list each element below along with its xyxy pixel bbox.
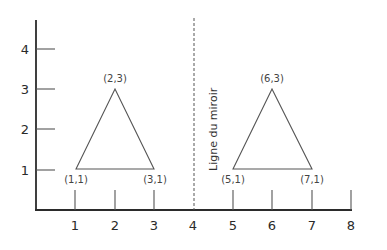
y-tick-label: 4 [21,42,29,57]
vertex-label: (7,1) [300,174,324,185]
vertex-label: (5,1) [221,174,245,185]
triangle-shape [76,89,154,169]
y-tick-label: 1 [21,163,29,178]
triangle-reflection: (5,1) (6,3) (7,1) [221,73,324,185]
x-tick-label: 8 [347,218,355,233]
x-tick-label: 1 [71,218,79,233]
x-tick-label: 5 [229,218,237,233]
vertex-label: (3,1) [143,174,167,185]
mirror-line-label: Ligne du miroir [207,87,220,171]
x-tick-labels: 1 2 3 4 5 6 7 8 [71,218,355,233]
reflection-diagram: 1 2 3 4 1 2 3 4 5 6 7 8 Ligne du miroir [0,0,387,250]
y-tick-label: 2 [21,122,29,137]
x-ticks [75,190,351,210]
x-tick-label: 3 [150,218,158,233]
diagram-canvas: 1 2 3 4 1 2 3 4 5 6 7 8 Ligne du miroir [0,0,387,250]
vertex-label: (2,3) [103,73,127,84]
triangle-shape [233,89,312,169]
y-ticks [36,49,55,170]
x-tick-label: 4 [189,218,197,233]
x-tick-label: 2 [111,218,119,233]
y-tick-label: 3 [21,82,29,97]
x-tick-label: 7 [308,218,316,233]
x-tick-label: 6 [268,218,276,233]
vertex-label: (6,3) [260,73,284,84]
triangle-original: (1,1) (2,3) (3,1) [64,73,167,185]
y-tick-labels: 1 2 3 4 [21,42,29,178]
vertex-label: (1,1) [64,174,88,185]
